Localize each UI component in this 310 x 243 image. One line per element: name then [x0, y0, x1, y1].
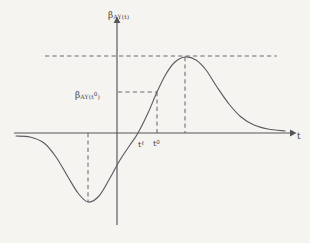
response-curve — [16, 57, 285, 202]
tick-label-t-zero-superscript: 0 — [156, 139, 160, 145]
x-axis-title-symbol: t — [297, 131, 300, 141]
tick-label-t-ell: tℓ — [138, 134, 144, 150]
y-axis-title-subscript: AY(t) — [113, 13, 129, 20]
impulse-response-figure: βAY(t) βAY(t0) tℓ t0 t — [0, 0, 310, 243]
beta-at-t0-subscript: AY(t — [80, 93, 94, 100]
x-axis-arrowhead — [290, 130, 297, 137]
tick-label-t-ell-superscript: ℓ — [141, 140, 144, 146]
plot-canvas — [0, 0, 310, 243]
y-axis-title: βAY(t) — [108, 5, 129, 21]
tick-label-t-zero: t0 — [153, 133, 160, 149]
beta-at-t0-subscript-close: ) — [97, 93, 100, 100]
beta-at-t0-label: βAY(t0) — [75, 85, 100, 101]
x-axis-title: t — [297, 126, 300, 142]
